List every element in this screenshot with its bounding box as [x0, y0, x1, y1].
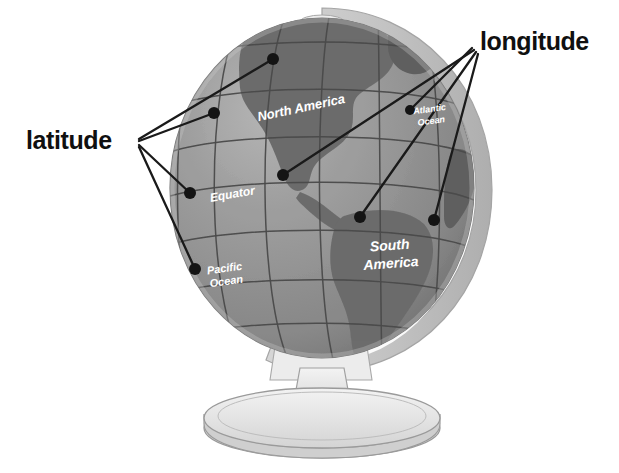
globe-illustration: North America Atlantic Ocean Equator Pac…: [0, 0, 619, 473]
latitude-dot: [184, 187, 196, 199]
longitude-dot: [277, 169, 289, 181]
latitude-dot: [189, 263, 201, 275]
latitude-dot: [267, 53, 279, 65]
label-pacific-ocean: Pacific Ocean: [206, 260, 245, 290]
latitude-dot: [208, 107, 220, 119]
longitude-dot: [428, 214, 440, 226]
longitude-dot: [354, 211, 366, 223]
callout-label-longitude: longitude: [480, 27, 589, 56]
callout-label-latitude: latitude: [26, 126, 112, 155]
globe-artwork: North America Atlantic Ocean Equator Pac…: [0, 0, 619, 473]
svg-text:South: South: [369, 236, 410, 255]
